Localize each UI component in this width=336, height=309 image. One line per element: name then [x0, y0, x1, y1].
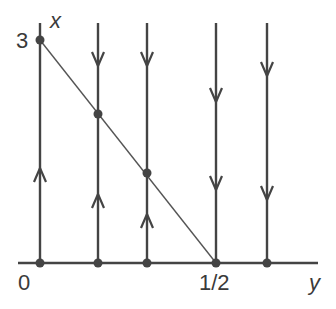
equilibrium-point [36, 36, 45, 45]
equilibrium-line [40, 40, 216, 263]
axis-point [263, 259, 272, 268]
horizontal-axis-label: y [307, 270, 322, 295]
equilibrium-point [94, 110, 103, 119]
axis-point [212, 259, 221, 268]
phase-diagram: x 3 0 1/2 y [0, 0, 336, 309]
equilibrium-point [143, 169, 152, 178]
diagram-svg: x 3 0 1/2 y [0, 0, 336, 309]
axis-point [94, 259, 103, 268]
axis-point [36, 259, 45, 268]
tick-label-half: 1/2 [199, 270, 230, 295]
tick-label-0: 0 [18, 270, 30, 295]
vertical-axis-label: x [49, 8, 62, 33]
axis-point [143, 259, 152, 268]
tick-label-3: 3 [16, 28, 28, 53]
